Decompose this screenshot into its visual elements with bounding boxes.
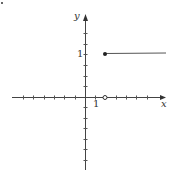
function-segment bbox=[105, 53, 166, 54]
x-tick-label-1: 1 bbox=[93, 99, 99, 109]
x-axis-label: x bbox=[161, 99, 167, 109]
closed-point bbox=[103, 52, 107, 56]
corner-mark bbox=[1, 2, 3, 4]
coordinate-plane bbox=[0, 0, 177, 177]
graph-figure: y x 1 1 bbox=[0, 0, 177, 177]
open-point bbox=[103, 96, 107, 100]
y-axis-label: y bbox=[74, 11, 80, 21]
y-tick-label-1: 1 bbox=[77, 49, 83, 59]
y-axis-arrow-icon bbox=[83, 14, 88, 21]
